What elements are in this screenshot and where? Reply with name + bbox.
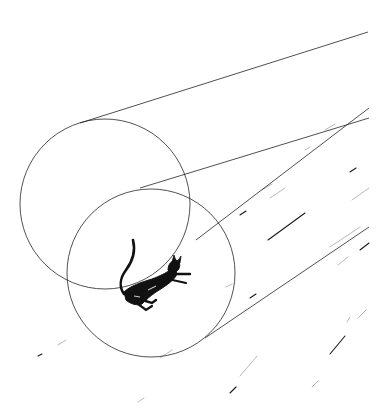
falling-cat-drawing bbox=[0, 0, 386, 415]
background bbox=[0, 0, 386, 415]
